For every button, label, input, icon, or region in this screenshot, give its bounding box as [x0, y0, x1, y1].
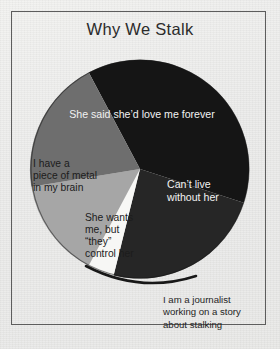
pie-label-metal-in-my-brain: I have a piece of metal in my brain: [33, 158, 115, 194]
pie-label-they-control-her: She wants me, but “they” control her: [85, 212, 161, 261]
pie-label-journalist-callout: I am a journalist working on a story abo…: [163, 294, 269, 331]
pie-label-love-me-forever: She said she’d love me forever: [56, 108, 228, 121]
pie-label-cant-live-without-her: Can’t live without her: [167, 178, 251, 203]
chart-page: Why We Stalk She said she’d love me fore…: [0, 0, 280, 349]
